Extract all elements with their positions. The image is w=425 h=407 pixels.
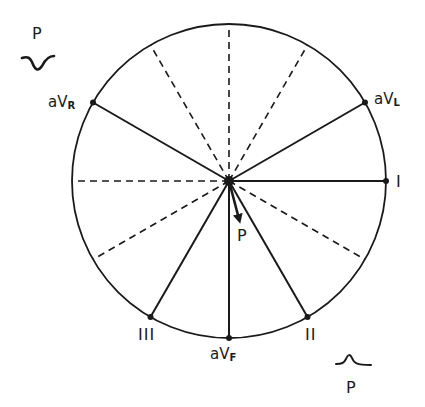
dot-lead-avr — [90, 100, 96, 106]
dot-lead-avl — [362, 100, 368, 106]
axis-lead-iii — [151, 181, 230, 317]
dot-lead-ii — [305, 314, 311, 320]
lead-avf-label: aVF — [210, 347, 236, 363]
bottom-right-p-label: P — [346, 380, 356, 396]
dot-lead-i — [383, 178, 389, 184]
top-left-p-label: P — [32, 26, 42, 42]
lead-avr-prefix: aV — [48, 93, 67, 111]
lead-axes — [93, 103, 386, 339]
dot-lead-avf — [226, 335, 232, 341]
upright-p-wave-icon — [336, 355, 371, 365]
lead-avl-sub: L — [393, 97, 399, 108]
lead-avf-sub: F — [229, 352, 236, 363]
lead-avf-prefix: aV — [210, 345, 229, 363]
axis-minus-120 — [151, 45, 230, 181]
lead-avr-label: aVR — [48, 95, 75, 111]
axis-150 — [93, 181, 229, 260]
lead-avl-prefix: aV — [374, 90, 393, 108]
lead-endpoints — [90, 100, 389, 342]
axis-30 — [229, 181, 365, 260]
p-vector-arrow — [229, 181, 239, 219]
axis-lead-avr — [93, 103, 229, 182]
inverted-p-wave-icon — [22, 56, 54, 69]
lead-iii-label: III — [138, 327, 155, 343]
dashed-axes — [72, 24, 365, 260]
axis-lead-avl — [229, 103, 365, 182]
p-vector-label: P — [237, 228, 247, 244]
lead-avr-sub: R — [67, 100, 75, 111]
lead-avl-label: aVL — [374, 92, 400, 108]
dot-lead-iii — [148, 314, 154, 320]
axis-minus-60 — [229, 45, 308, 181]
lead-i-label: I — [396, 174, 402, 190]
axis-lead-ii — [229, 181, 308, 317]
lead-ii-label: II — [305, 327, 316, 343]
